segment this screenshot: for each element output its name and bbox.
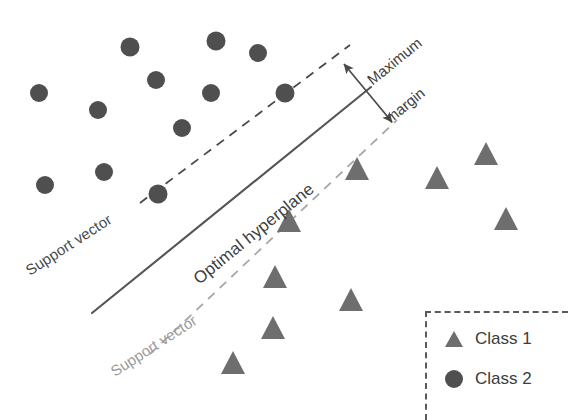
- legend-label-class2: Class 2: [475, 369, 532, 389]
- class1-point: [261, 316, 285, 339]
- class2-point: [121, 38, 140, 57]
- class1-point: [474, 142, 498, 165]
- class2-point: [249, 44, 267, 62]
- circle-icon: [441, 369, 467, 389]
- class2-point: [147, 71, 165, 89]
- upper-margin-boundary-line: [140, 45, 350, 203]
- legend-item-class1: Class 1: [441, 329, 532, 349]
- class2-support-vector-point: [276, 84, 295, 103]
- class1-point: [221, 351, 245, 374]
- triangle-icon: [441, 329, 467, 349]
- class1-point: [425, 166, 449, 189]
- class2-point: [95, 163, 113, 181]
- class2-point: [202, 84, 220, 102]
- class2-support-vector-point: [149, 185, 168, 204]
- legend-item-class2: Class 2: [441, 369, 532, 389]
- class1-point: [263, 265, 287, 288]
- legend-label-class1: Class 1: [475, 329, 532, 349]
- legend: Class 1 Class 2: [425, 311, 568, 420]
- class2-point: [207, 32, 226, 51]
- class1-point: [339, 288, 363, 311]
- svm-diagram: Optimal hyperplane Support vector Suppor…: [0, 0, 568, 420]
- class2-circle-markers: [30, 32, 295, 204]
- optimal-hyperplane-line: [92, 87, 371, 313]
- class2-point: [173, 119, 191, 137]
- class2-point: [30, 84, 48, 102]
- class2-point: [89, 101, 107, 119]
- class1-support-vector-point: [345, 157, 369, 180]
- class1-point: [494, 207, 518, 230]
- class2-point: [36, 176, 54, 194]
